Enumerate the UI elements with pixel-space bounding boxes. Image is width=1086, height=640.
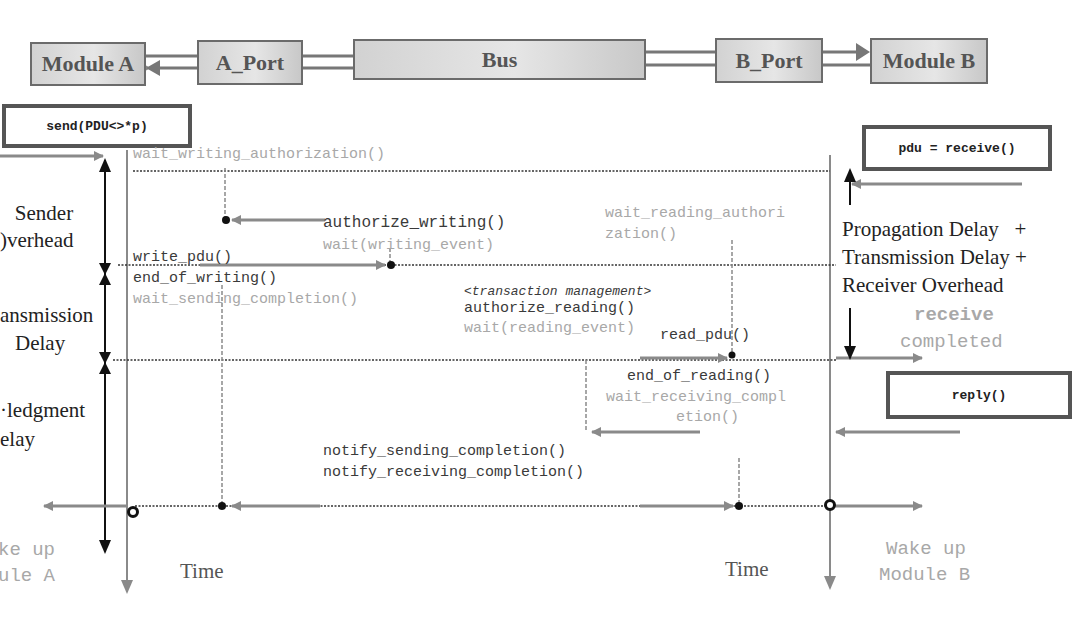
wait-sending-completion-text: wait_sending_completion() bbox=[133, 289, 358, 310]
end-of-reading-text: end_of_reading() bbox=[627, 366, 771, 387]
sender-overhead-label-2: )verhead bbox=[0, 226, 73, 254]
arrow-to-module-b bbox=[856, 43, 870, 61]
sequence-diagram: Module A A_Port Bus B_Port Module B send… bbox=[0, 0, 1086, 640]
end-of-writing-text: end_of_writing() bbox=[133, 268, 277, 289]
authorize-reading-text: authorize_reading() bbox=[464, 298, 635, 319]
bus-block: Bus bbox=[353, 39, 646, 80]
wake-up-a-label-1: ke up bbox=[0, 538, 55, 562]
b-port-label: B_Port bbox=[735, 48, 802, 74]
time-axis-label-right: Time bbox=[725, 555, 769, 583]
wait-receiving-completion-text-2: etion() bbox=[676, 407, 739, 428]
transmission-delay-label-2: Delay bbox=[15, 329, 65, 357]
notify-receiving-completion-text: notify_receiving_completion() bbox=[323, 462, 584, 483]
transmission-delay-right-label: Transmission Delay + bbox=[842, 243, 1027, 271]
wake-up-markers bbox=[129, 501, 835, 517]
a-port-label: A_Port bbox=[216, 50, 284, 76]
b-port-block: B_Port bbox=[715, 38, 823, 83]
send-call-box: send(PDU<>*p) bbox=[2, 104, 192, 148]
module-a-label: Module A bbox=[42, 51, 134, 77]
authorize-writing-text: authorize_writing() bbox=[323, 213, 505, 234]
sender-overhead-label-1: Sender bbox=[0, 199, 88, 227]
wake-up-a-label-2: ule A bbox=[0, 564, 55, 588]
receive-call-label: pdu = receive() bbox=[898, 141, 1015, 156]
reply-call-box: reply() bbox=[886, 371, 1072, 419]
sender-delay-bracket bbox=[99, 158, 111, 554]
wait-receiving-completion-text-1: wait_receiving_compl bbox=[606, 387, 786, 408]
module-a-block: Module A bbox=[30, 42, 146, 86]
write-pdu-text: write_pdu() bbox=[133, 247, 232, 268]
wait-reading-authorization-text-2: zation() bbox=[605, 224, 677, 245]
completed-word: completed bbox=[900, 330, 1003, 354]
wait-writing-event-text: wait(writing_event) bbox=[323, 235, 494, 256]
propagation-delay-label: Propagation Delay + bbox=[842, 215, 1026, 243]
receive-word: receive bbox=[914, 303, 994, 327]
wait-reading-authorization-text-1: wait_reading_authori bbox=[605, 203, 785, 224]
time-axis-label-left: Time bbox=[180, 557, 224, 585]
wake-up-b-label-2: Module B bbox=[879, 563, 970, 587]
module-b-label: Module B bbox=[883, 48, 975, 74]
receiver-overhead-label: Receiver Overhead bbox=[842, 271, 1004, 299]
arrow-to-module-a bbox=[146, 60, 160, 76]
read-pdu-text: read_pdu() bbox=[660, 325, 750, 346]
reply-call-label: reply() bbox=[952, 388, 1007, 403]
receive-call-box: pdu = receive() bbox=[862, 125, 1052, 171]
bus-label: Bus bbox=[482, 47, 517, 73]
a-port-block: A_Port bbox=[197, 40, 303, 85]
notify-sending-completion-text: notify_sending_completion() bbox=[323, 441, 566, 462]
ack-delay-label-1: ·ledgment bbox=[0, 396, 85, 424]
send-call-label: send(PDU<>*p) bbox=[46, 119, 147, 134]
transmission-delay-label-1: ansmission bbox=[0, 301, 93, 329]
wait-reading-event-text: wait(reading_event) bbox=[464, 318, 635, 339]
wait-writing-authorization-text: wait_writing_authorization() bbox=[133, 144, 385, 165]
module-b-block: Module B bbox=[870, 38, 988, 84]
wake-up-b-label-1: Wake up bbox=[886, 537, 966, 561]
ack-delay-label-2: elay bbox=[0, 425, 35, 453]
